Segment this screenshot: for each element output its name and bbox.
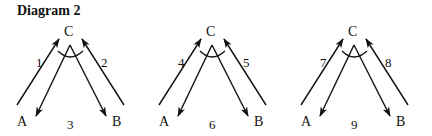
bottom-label: 6 <box>209 117 216 132</box>
diagram-title: Diagram 2 <box>17 3 80 18</box>
angle-arc <box>58 51 83 57</box>
point-b-label: B <box>396 114 405 129</box>
point-a-label: A <box>159 114 170 129</box>
left-ray-label: 4 <box>178 55 185 70</box>
point-c-label: C <box>206 24 215 39</box>
point-b-label: B <box>254 114 263 129</box>
left-ray-label: 7 <box>320 55 327 70</box>
point-b-label: B <box>112 114 121 129</box>
panel-2: C A B 4 5 6 <box>159 24 266 132</box>
point-c-label: C <box>64 24 73 39</box>
panel-1: C A B 1 2 3 <box>17 24 124 132</box>
panel-3: C A B 7 8 9 <box>301 24 408 132</box>
right-ray-label: 2 <box>101 55 108 70</box>
ray-a-to-c-arrow <box>159 39 201 105</box>
ray-a-to-c-arrow <box>301 39 343 105</box>
bottom-label: 9 <box>351 117 358 132</box>
left-ray-label: 1 <box>36 55 43 70</box>
right-ray-label: 8 <box>385 55 392 70</box>
ray-b-to-c-arrow <box>366 39 408 105</box>
angle-arc <box>200 51 225 57</box>
point-a-label: A <box>17 114 28 129</box>
ray-b-to-c-arrow <box>224 39 266 105</box>
right-ray-label: 5 <box>243 55 250 70</box>
point-c-label: C <box>348 24 357 39</box>
point-a-label: A <box>301 114 312 129</box>
ray-b-to-c-arrow <box>82 39 124 105</box>
bottom-label: 3 <box>67 117 74 132</box>
ray-a-to-c-arrow <box>17 39 59 105</box>
angle-arc <box>342 51 367 57</box>
diagram-canvas: Diagram 2 C A B 1 2 3 C A B 4 5 6 C A <box>0 0 432 136</box>
